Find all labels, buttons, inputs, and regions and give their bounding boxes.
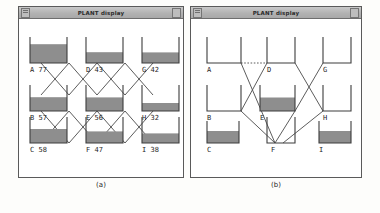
tank-label-C: C 58 xyxy=(30,146,47,154)
tank-label-C: C xyxy=(207,146,211,154)
panel-caption-b: (b) xyxy=(190,181,362,189)
tank-label-A: A xyxy=(207,66,212,74)
tank-I[interactable]: I 38 xyxy=(142,117,179,154)
panel-b: PLANT display xyxy=(190,6,362,189)
tank-F[interactable]: F xyxy=(267,117,295,154)
figure-container: PLANT display xyxy=(0,0,380,213)
plant-canvas-a: A 77 D 43 G 42 xyxy=(19,19,183,177)
tank-A[interactable]: A xyxy=(207,37,241,74)
tank-fill-D xyxy=(86,52,123,63)
tank-B[interactable]: B 57 xyxy=(30,85,67,122)
tank-fill-E xyxy=(260,98,295,112)
tank-C[interactable]: C xyxy=(207,121,239,154)
tank-G[interactable]: G 42 xyxy=(142,37,179,74)
tank-D[interactable]: D xyxy=(267,37,295,74)
tank-H[interactable]: H 32 xyxy=(142,85,179,122)
tank-fill-I xyxy=(319,131,351,143)
tank-B[interactable]: B xyxy=(207,85,241,122)
tank-I[interactable]: I xyxy=(319,121,351,154)
tank-fill-I xyxy=(142,133,179,143)
tank-D[interactable]: D 43 xyxy=(86,37,123,74)
tank-A[interactable]: A 77 xyxy=(30,37,67,74)
window-titlebar-a[interactable]: PLANT display xyxy=(19,7,183,19)
tank-fill-A xyxy=(30,44,67,63)
tank-label-I: I xyxy=(319,146,323,154)
plant-canvas-b: A D G B xyxy=(191,19,361,177)
tank-label-G: G 42 xyxy=(142,66,159,74)
tank-label-B: B xyxy=(207,114,211,122)
tank-label-I: I 38 xyxy=(142,146,159,154)
tank-outline-G xyxy=(323,37,351,63)
tank-label-G: G xyxy=(323,66,327,74)
plant-diagram-a: A 77 D 43 G 42 xyxy=(19,19,183,177)
link-b xyxy=(275,111,295,143)
tank-outline-D xyxy=(267,37,295,63)
tank-label-E: E xyxy=(260,114,264,122)
window-resize-icon-a[interactable] xyxy=(172,8,181,18)
tank-label-F: F 47 xyxy=(86,146,103,154)
tank-label-A: A 77 xyxy=(30,66,47,74)
plant-display-window-a[interactable]: PLANT display xyxy=(18,6,184,178)
tank-fill-H xyxy=(142,103,179,111)
window-resize-icon-b[interactable] xyxy=(350,8,359,18)
tank-fill-B xyxy=(30,97,67,111)
tank-E[interactable]: E 56 xyxy=(86,85,123,122)
tank-F[interactable]: F 47 xyxy=(86,117,123,154)
panel-caption-a: (a) xyxy=(18,181,184,189)
tank-C[interactable]: C 58 xyxy=(30,117,67,154)
link-b xyxy=(241,111,275,143)
tank-outline-B xyxy=(207,85,241,111)
window-menu-icon-a[interactable] xyxy=(21,8,30,18)
tank-G[interactable]: G xyxy=(323,37,351,74)
tank-fill-C xyxy=(30,129,67,143)
tank-label-F: F xyxy=(271,146,275,154)
window-title-a: PLANT display xyxy=(78,10,125,16)
tank-label-B: B 57 xyxy=(30,114,47,122)
tank-fill-C xyxy=(207,131,239,143)
tank-fill-F xyxy=(86,131,123,143)
tank-fill-E xyxy=(86,97,123,111)
tank-label-D: D 43 xyxy=(86,66,103,74)
tank-outline-H xyxy=(323,85,351,111)
plant-display-window-b[interactable]: PLANT display xyxy=(190,6,362,178)
tank-label-H: H xyxy=(323,114,327,122)
tank-E[interactable]: E xyxy=(260,85,295,122)
tank-label-H: H 32 xyxy=(142,114,159,122)
tank-fill-G xyxy=(142,52,179,63)
panel-a: PLANT display xyxy=(18,6,184,189)
window-menu-icon-b[interactable] xyxy=(193,8,202,18)
link-b xyxy=(283,111,323,143)
tank-label-E: E 56 xyxy=(86,114,103,122)
window-titlebar-b[interactable]: PLANT display xyxy=(191,7,361,19)
plant-diagram-b: A D G B xyxy=(191,19,361,177)
tank-label-D: D xyxy=(267,66,271,74)
tank-H[interactable]: H xyxy=(323,85,351,122)
window-title-b: PLANT display xyxy=(253,10,300,16)
tank-outline-A xyxy=(207,37,241,63)
